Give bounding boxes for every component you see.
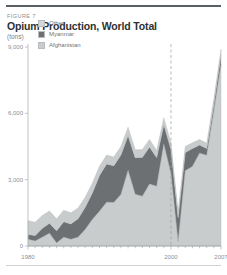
opium-production-area-chart: 03,0006,0009,000198020002007 — [0, 40, 227, 265]
bottom-divider-rule — [6, 265, 221, 266]
legend-label-myanmar: Myanmar — [49, 31, 74, 38]
legend-swatch-other — [38, 20, 45, 27]
y-tick-label: 3,000 — [8, 177, 24, 183]
y-tick-label: 9,000 — [8, 44, 24, 50]
units-label: (tons) — [7, 33, 24, 40]
legend-item-other: Other — [38, 18, 81, 28]
y-tick-label: 6,000 — [8, 110, 24, 116]
legend-label-afghanistan: Afghanistan — [49, 42, 81, 49]
legend-swatch-myanmar — [38, 31, 45, 38]
legend-item-afghanistan: Afghanistan — [38, 40, 81, 50]
x-tick-label: 2000 — [164, 254, 178, 260]
top-divider-rule — [6, 5, 221, 7]
chart-legend: Other Myanmar Afghanistan — [38, 18, 81, 51]
x-tick-label: 2007 — [214, 254, 227, 260]
legend-item-myanmar: Myanmar — [38, 29, 81, 39]
x-tick-label: 1980 — [21, 254, 35, 260]
chart-area: 03,0006,0009,000198020002007 — [0, 40, 227, 265]
page-title: Opium Production, World Total — [7, 20, 157, 32]
figure-label: FIGURE 7 — [7, 13, 36, 19]
legend-swatch-afghanistan — [38, 42, 45, 49]
y-tick-label: 0 — [20, 243, 24, 249]
legend-label-other: Other — [49, 20, 64, 27]
